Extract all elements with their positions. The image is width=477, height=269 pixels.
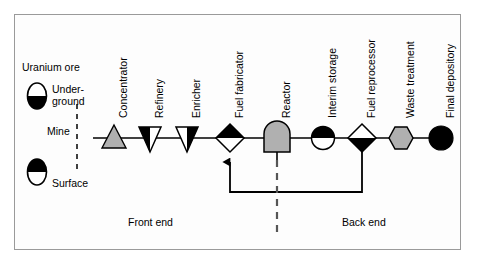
node-label-fuel-reprocessor: Fuel reprocessor	[366, 39, 377, 118]
node-label-concentrator: Concentrator	[118, 57, 129, 118]
legend-label-underground-line2: ground	[52, 96, 85, 108]
node-label-reactor: Reactor	[281, 81, 292, 118]
legend-label-mine: Mine	[47, 126, 70, 138]
node-enricher[interactable]	[176, 127, 198, 152]
node-label-waste-treatment: Waste treatment	[405, 41, 416, 118]
legend-label-surface: Surface	[52, 178, 88, 190]
node-label-fuel-fabricator: Fuel fabricator	[234, 51, 245, 118]
recycle-loop-path	[230, 149, 362, 192]
node-fuel-fabricator[interactable]	[216, 124, 244, 152]
node-refinery[interactable]	[139, 127, 161, 152]
legend-label-underground-line1: Under-	[52, 84, 84, 96]
zone-label-back-end: Back end	[342, 216, 386, 228]
node-fuel-reprocessor[interactable]	[348, 124, 376, 152]
node-reactor[interactable]	[264, 121, 290, 152]
legend-symbol-underground	[26, 82, 49, 111]
legend-symbol-surface	[26, 158, 49, 187]
node-label-interim-storage: Interim storage	[327, 48, 338, 118]
zone-label-front-end: Front end	[128, 216, 173, 228]
node-label-enricher: Enricher	[191, 79, 202, 118]
node-interim-storage[interactable]	[310, 125, 336, 152]
node-final-depository[interactable]	[429, 126, 453, 150]
node-label-refinery: Refinery	[154, 79, 165, 118]
legend-heading: Uranium ore	[22, 62, 80, 74]
node-label-final-depository: Final depository	[445, 44, 456, 118]
nuclear-fuel-cycle-figure: Uranium ore Under- ground Mine Surface C…	[0, 0, 477, 269]
node-concentrator[interactable]	[102, 125, 126, 148]
node-waste-treatment[interactable]	[389, 127, 413, 149]
